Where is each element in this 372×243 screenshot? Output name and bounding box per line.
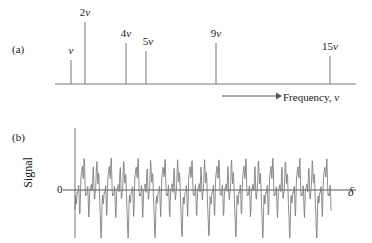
- spectral-line-label: 5ν: [143, 35, 153, 47]
- spectral-line-label: ν: [69, 44, 74, 56]
- spectral-line-label: 2ν: [80, 6, 90, 18]
- spectral-line-label: 15ν: [322, 40, 338, 52]
- figure-vector-layer: [0, 0, 372, 243]
- frequency-caption-text: Frequency,: [283, 91, 334, 103]
- interferogram-trace: [75, 158, 331, 238]
- frequency-caption-symbol: ν: [334, 91, 339, 103]
- signal-axis-label: Signal: [21, 143, 36, 203]
- frequency-arrow-head: [276, 93, 282, 100]
- frequency-arrow: [222, 93, 282, 100]
- delta-axis-label: δ: [348, 185, 354, 200]
- spectral-stick-group: [71, 22, 330, 84]
- spectral-line-label: 4ν: [121, 27, 131, 39]
- spectral-line-label: 9ν: [211, 27, 221, 39]
- signal-zero-label: 0: [57, 183, 63, 195]
- frequency-axis-caption: Frequency, ν: [283, 91, 339, 103]
- interferogram-figure: (a) (b) ν2ν4ν5ν9ν15ν Frequency, ν Signal…: [0, 0, 372, 243]
